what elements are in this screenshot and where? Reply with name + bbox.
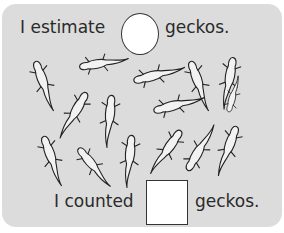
counted-answer-box[interactable] — [146, 180, 188, 225]
counted-prefix: I counted — [54, 191, 134, 211]
counted-suffix: geckos. — [195, 191, 260, 211]
worksheet-card: I estimate geckos. I counted geckos. — [2, 4, 282, 227]
estimate-prefix: I estimate — [20, 17, 105, 37]
geckos-illustration — [2, 44, 282, 214]
estimate-suffix: geckos. — [165, 17, 230, 37]
